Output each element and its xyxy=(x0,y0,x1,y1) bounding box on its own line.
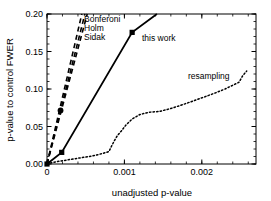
x-axis-title: unadjusted p-value xyxy=(112,187,192,198)
data-marker xyxy=(44,161,49,166)
x-tick-label: 0.002 xyxy=(191,167,214,177)
y-tick-label: 0.15 xyxy=(25,47,43,57)
y-tick-label: 0.00 xyxy=(25,159,43,169)
chart-canvas: 00.0010.0020.000.050.100.150.20 Bonferon… xyxy=(0,0,271,201)
data-marker xyxy=(130,30,135,35)
y-axis-title: p-value to control FWER xyxy=(4,38,15,142)
series-label: Sidak xyxy=(84,32,106,42)
y-tick-label: 0.10 xyxy=(25,84,43,94)
y-tick-label: 0.20 xyxy=(25,9,43,19)
y-tick-label: 0.05 xyxy=(25,122,43,132)
chart-figure: 00.0010.0020.000.050.100.150.20 Bonferon… xyxy=(0,0,271,201)
series-label: resampling xyxy=(188,71,230,81)
data-marker xyxy=(58,107,64,113)
x-tick-label: 0.001 xyxy=(113,167,136,177)
series-label: this work xyxy=(142,33,176,43)
x-tick-label: 0 xyxy=(44,167,49,177)
data-marker xyxy=(59,150,64,155)
